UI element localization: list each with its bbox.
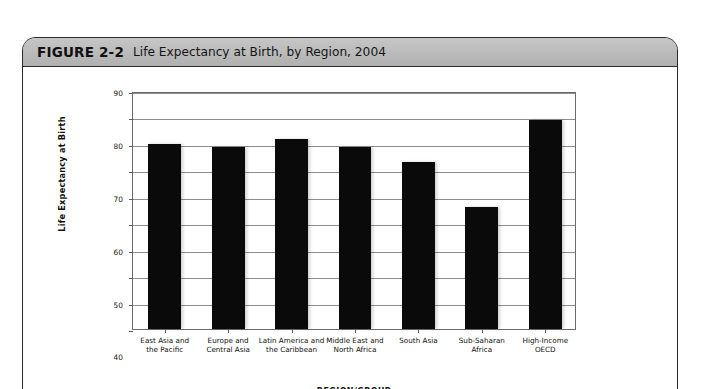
bar (148, 144, 181, 329)
chart-body: Life Expectancy at Birth 010203040506070… (23, 67, 677, 389)
x-axis-tick (228, 329, 229, 333)
x-axis-tick (418, 329, 419, 333)
bar-series (133, 93, 575, 329)
x-axis-tick-label: Middle East andNorth Africa (326, 336, 383, 355)
bar (402, 162, 435, 329)
y-axis-title: Life Expectancy at Birth (57, 89, 67, 259)
figure-number: FIGURE 2-2 (37, 44, 124, 60)
figure-frame: FIGURE 2-2 Life Expectancy at Birth, by … (22, 37, 678, 389)
figure-header: FIGURE 2-2 Life Expectancy at Birth, by … (23, 38, 677, 67)
y-axis-tick-label: 50 (114, 300, 123, 309)
bar (529, 120, 562, 329)
y-axis-tick-label: 90 (114, 89, 123, 98)
y-axis-tick-label: 80 (114, 141, 123, 150)
plot-area: 0102030405060708090 East Asia andthe Pac… (132, 92, 576, 330)
x-axis-tick (292, 329, 293, 333)
y-axis-tick-label: 70 (114, 194, 123, 203)
x-axis-tick-label: Sub-SaharanAfrica (459, 336, 505, 355)
x-axis-tick-label: High-IncomeOECD (523, 336, 569, 355)
x-axis-tick-label: South Asia (399, 336, 437, 345)
x-axis-tick-label: Europe andCentral Asia (206, 336, 250, 355)
y-axis-tick-label: 60 (114, 247, 123, 256)
bar (465, 207, 498, 329)
x-axis-tick (355, 329, 356, 333)
bar (212, 147, 245, 329)
x-axis-tick (482, 329, 483, 333)
x-axis-tick (545, 329, 546, 333)
y-axis-tick: 0 (129, 331, 133, 332)
y-axis-tick-label: 40 (114, 353, 123, 362)
bar (339, 147, 372, 329)
x-axis-tick-label: East Asia andthe Pacific (140, 336, 189, 355)
bar (275, 139, 308, 329)
figure-caption: Life Expectancy at Birth, by Region, 200… (133, 45, 386, 59)
x-axis-tick (165, 329, 166, 333)
x-axis-tick-label: Latin America andthe Caribbean (259, 336, 325, 355)
